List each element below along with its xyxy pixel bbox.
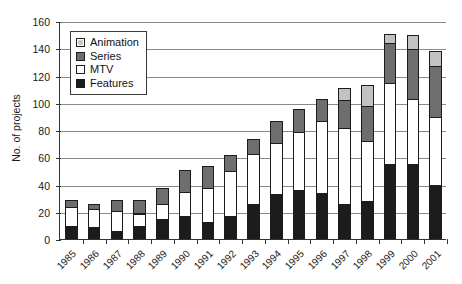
x-tick-mark <box>242 239 243 244</box>
x-tick-mark <box>333 239 334 244</box>
bar-2001 <box>429 52 442 239</box>
gridline <box>60 22 446 23</box>
bar-segment-series-1992 <box>224 155 237 172</box>
bar-segment-series-1986 <box>88 204 101 210</box>
bar-segment-mtv-1992 <box>224 171 237 217</box>
legend-label: Animation <box>90 37 139 48</box>
bar-segment-mtv-1998 <box>361 141 374 202</box>
bar-segment-series-1995 <box>293 109 306 133</box>
bar-segment-animation-1997 <box>338 88 351 101</box>
x-tick-label: 1995 <box>283 248 307 272</box>
legend-swatch-animation-icon <box>76 38 85 47</box>
bar-segment-mtv-1999 <box>384 83 397 166</box>
x-tick-mark <box>310 239 311 244</box>
bar-segment-features-1997 <box>338 204 351 239</box>
bar-segment-features-1986 <box>88 227 101 239</box>
bar-segment-series-2000 <box>407 49 420 100</box>
x-tick-label: 1996 <box>305 248 329 272</box>
bar-segment-mtv-1994 <box>270 143 283 196</box>
bar-segment-features-2001 <box>429 185 442 239</box>
x-tick-mark <box>288 239 289 244</box>
y-tick-label: 140 <box>22 44 50 55</box>
x-tick-label: 1993 <box>237 248 261 272</box>
y-tick-label: 160 <box>22 17 50 28</box>
y-tick-label: 0 <box>22 235 50 246</box>
chart-legend: AnimationSeriesMTVFeatures <box>70 31 147 95</box>
bar-segment-animation-1999 <box>384 34 397 45</box>
bar-2000 <box>407 36 420 239</box>
y-tick-label: 80 <box>22 126 50 137</box>
bar-1986 <box>88 205 101 239</box>
x-tick-mark <box>151 239 152 244</box>
x-tick-mark <box>174 239 175 244</box>
bar-segment-series-1998 <box>361 106 374 142</box>
bar-segment-series-1988 <box>133 200 146 215</box>
bar-segment-series-1993 <box>247 139 260 155</box>
x-tick-label: 1985 <box>55 248 79 272</box>
bar-segment-features-1991 <box>202 222 215 239</box>
x-tick-label: 1987 <box>100 248 124 272</box>
bar-segment-features-1989 <box>156 219 169 239</box>
y-tick-mark <box>56 213 61 214</box>
bar-segment-features-1998 <box>361 201 374 239</box>
x-tick-mark <box>265 239 266 244</box>
y-tick-label: 20 <box>22 208 50 219</box>
y-tick-label: 60 <box>22 153 50 164</box>
bar-segment-features-1993 <box>247 204 260 239</box>
y-tick-mark <box>56 240 61 241</box>
bar-segment-mtv-1988 <box>133 214 146 227</box>
bar-segment-mtv-1990 <box>179 192 192 218</box>
bar-1998 <box>361 86 374 239</box>
x-tick-mark <box>219 239 220 244</box>
bar-segment-features-1994 <box>270 194 283 239</box>
x-tick-mark <box>106 239 107 244</box>
bar-1987 <box>111 201 124 239</box>
bar-1994 <box>270 122 283 239</box>
x-tick-label: 2001 <box>419 248 443 272</box>
bar-segment-series-1991 <box>202 166 215 189</box>
legend-label: Features <box>90 78 133 89</box>
x-tick-label: 1999 <box>374 248 398 272</box>
y-tick-mark <box>56 131 61 132</box>
bar-1999 <box>384 35 397 239</box>
bar-segment-animation-2000 <box>407 35 420 50</box>
bar-segment-mtv-1987 <box>111 211 124 232</box>
bar-1992 <box>224 156 237 239</box>
bar-segment-series-1994 <box>270 121 283 144</box>
bar-segment-mtv-1985 <box>65 207 78 227</box>
bar-1991 <box>202 167 215 239</box>
x-tick-label: 1990 <box>169 248 193 272</box>
x-tick-label: 1991 <box>191 248 215 272</box>
bar-1990 <box>179 171 192 239</box>
bar-segment-features-1990 <box>179 216 192 239</box>
bar-segment-animation-1998 <box>361 85 374 106</box>
bar-segment-series-1997 <box>338 100 351 128</box>
legend-label: MTV <box>90 64 113 75</box>
bar-segment-animation-2001 <box>429 51 442 67</box>
legend-swatch-mtv-icon <box>76 65 85 74</box>
legend-item-animation[interactable]: Animation <box>76 36 139 50</box>
bar-chart: No. of projects 020406080100120140160 An… <box>0 0 462 284</box>
bar-1995 <box>293 110 306 239</box>
legend-item-series[interactable]: Series <box>76 50 139 64</box>
legend-item-features[interactable]: Features <box>76 77 139 91</box>
x-tick-label: 2000 <box>396 248 420 272</box>
x-tick-label: 1988 <box>123 248 147 272</box>
y-tick-mark <box>56 186 61 187</box>
bar-segment-features-1995 <box>293 190 306 239</box>
x-tick-label: 1992 <box>214 248 238 272</box>
bar-1997 <box>338 89 351 239</box>
bar-segment-mtv-1989 <box>156 204 169 220</box>
bar-segment-mtv-1995 <box>293 132 306 192</box>
x-tick-label: 1997 <box>328 248 352 272</box>
bar-segment-features-1996 <box>316 193 329 239</box>
bar-1985 <box>65 201 78 239</box>
legend-item-mtv[interactable]: MTV <box>76 63 139 77</box>
y-tick-label: 100 <box>22 99 50 110</box>
bar-segment-mtv-1991 <box>202 188 215 223</box>
bar-segment-series-1989 <box>156 188 169 205</box>
legend-swatch-features-icon <box>76 79 85 88</box>
bar-segment-series-1990 <box>179 170 192 193</box>
bar-segment-mtv-1997 <box>338 128 351 205</box>
y-axis-title: No. of projects <box>10 68 22 188</box>
